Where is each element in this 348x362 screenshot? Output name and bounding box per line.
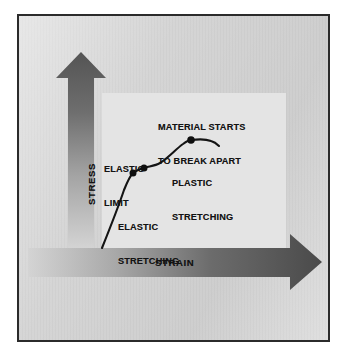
annotation-plastic-stretching-line2: STRETCHING <box>172 212 233 223</box>
stress-axis-label: STRESS <box>86 163 97 205</box>
annotation-material-breaks-line1: MATERIAL STARTS <box>158 122 245 133</box>
annotation-elastic-stretching-line1: ELASTIC <box>118 222 179 233</box>
annotation-plastic-stretching-line1: PLASTIC <box>172 178 233 189</box>
annotation-elastic-limit-line1: ELASTIC <box>104 164 144 175</box>
diagram-page: MATERIAL STARTS TO BREAK APART ELASTIC L… <box>0 0 348 362</box>
annotation-plastic-stretching: PLASTIC STRETCHING <box>172 155 233 246</box>
annotation-elastic-stretching: ELASTIC STRETCHING <box>118 199 179 290</box>
strain-axis-label: STRAIN <box>155 257 194 268</box>
